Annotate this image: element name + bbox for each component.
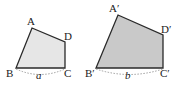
vertex-label-a-prime: A′ [109, 2, 119, 14]
vertex-label-d-prime: D′ [161, 23, 171, 35]
quadrilateral-a-prime-b-prime-c-prime-d-prime [96, 15, 163, 68]
side-label-b: b [125, 69, 131, 81]
vertex-label-b-prime: B′ [85, 67, 95, 79]
vertex-label-d: D [64, 30, 72, 42]
vertex-label-a: A [27, 15, 35, 27]
similar-quadrilaterals-figure: A D B C a A′ D′ B′ C′ b [0, 0, 177, 85]
vertex-label-c-prime: C′ [160, 67, 170, 79]
side-label-a: a [36, 69, 42, 81]
vertex-label-b: B [6, 67, 13, 79]
vertex-label-c: C [64, 67, 71, 79]
quadrilateral-abcd [16, 28, 65, 68]
